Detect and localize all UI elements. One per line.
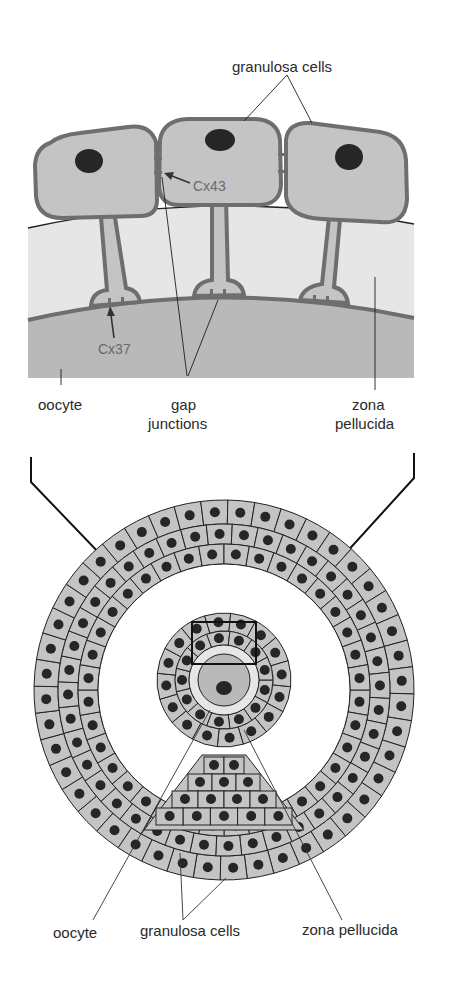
granulosa-cell-left [35,127,157,218]
label-oocyte-top: oocyte [38,396,82,413]
label-cx43: Cx43 [193,178,226,194]
magnified-view: granulosa cells Cx43 Cx37 oocyte gap jun… [28,58,414,432]
label-oocyte-bottom: oocyte [53,924,97,941]
follicle-diagram: granulosa cells Cx43 Cx37 oocyte gap jun… [0,0,449,986]
follicle-cross-section [34,500,414,880]
label-zona: zona [352,396,385,413]
label-cx37: Cx37 [98,341,131,357]
label-zona-pellucida-bottom: zona pellucida [302,921,399,938]
label-pellucida: pellucida [335,415,395,432]
label-junctions: junctions [147,415,207,432]
label-granulosa-cells-top: granulosa cells [232,58,332,75]
granulosa-cell-right [286,123,407,222]
label-gap: gap [171,396,196,413]
label-granulosa-cells-bottom: granulosa cells [140,922,240,939]
